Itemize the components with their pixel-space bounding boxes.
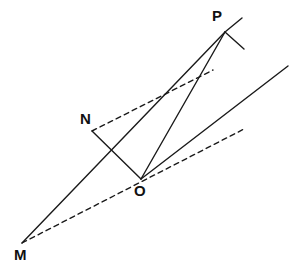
ray-from-O-upper-right: [141, 66, 288, 179]
tick-at-P-upper: [225, 18, 242, 32]
vertex-label-n: N: [80, 111, 91, 126]
vertex-label-m: M: [14, 247, 27, 262]
geometry-diagram: MNOP: [0, 0, 300, 277]
tick-at-P-lower: [225, 32, 244, 49]
vertex-label-o: O: [134, 183, 146, 198]
geometry-canvas: [0, 0, 300, 277]
dashed-from-N: [92, 70, 213, 131]
vertex-label-p: P: [212, 8, 222, 23]
segment-N-O: [92, 131, 141, 179]
